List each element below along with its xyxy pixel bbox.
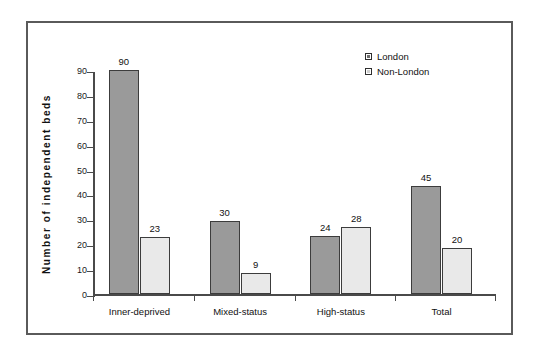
y-axis-title: Number of independent beds <box>39 72 55 296</box>
category-label: High-status <box>317 306 365 317</box>
y-axis-tick <box>87 271 95 272</box>
bar-value-label: 90 <box>119 56 130 67</box>
bar-value-label: 9 <box>253 259 258 270</box>
y-axis-tick-label: 40 <box>61 191 87 200</box>
y-axis-tick-label: 0 <box>61 291 87 300</box>
category-label: Mixed-status <box>213 306 267 317</box>
bar-london[interactable]: 45 <box>411 186 441 294</box>
bar-value-label: 24 <box>320 222 331 233</box>
chart-legend: London Non-London <box>365 50 429 80</box>
y-axis-tick-labels: 9080706050403020100 <box>57 72 87 296</box>
y-axis-line <box>93 72 95 296</box>
x-axis-tick <box>395 294 396 301</box>
bar-value-label: 23 <box>150 223 161 234</box>
x-axis-tick <box>93 294 94 301</box>
x-axis-tick <box>495 294 496 301</box>
legend-item-london[interactable]: London <box>365 50 429 63</box>
bar-non-london[interactable]: 9 <box>241 273 271 294</box>
y-axis-tick <box>87 72 95 73</box>
bar-group: 4520 <box>411 70 472 294</box>
bar-value-label: 28 <box>351 213 362 224</box>
y-axis-tick-label: 90 <box>61 67 87 76</box>
legend-label-non-london: Non-London <box>377 66 429 77</box>
y-axis-tick <box>87 122 95 123</box>
legend-item-non-london[interactable]: Non-London <box>365 65 429 78</box>
x-axis-tick <box>194 294 195 301</box>
bar-value-label: 45 <box>421 172 432 183</box>
y-axis-tick-label: 20 <box>61 241 87 250</box>
bar-group: 2428 <box>310 70 371 294</box>
y-axis-tick <box>87 97 95 98</box>
bar-value-label: 20 <box>452 234 463 245</box>
y-axis-tick <box>87 246 95 247</box>
y-axis-tick-label: 80 <box>61 92 87 101</box>
y-axis-tick <box>87 196 95 197</box>
bar-non-london[interactable]: 23 <box>140 237 170 294</box>
bar-group: 309 <box>210 70 271 294</box>
bar-value-label: 30 <box>219 207 230 218</box>
legend-swatch-non-london-icon <box>365 68 372 75</box>
bar-non-london[interactable]: 28 <box>341 227 371 294</box>
y-axis-tick <box>87 221 95 222</box>
y-axis-tick <box>87 147 95 148</box>
y-axis-tick-label: 30 <box>61 216 87 225</box>
y-axis-tick-label: 70 <box>61 117 87 126</box>
category-label: Total <box>432 306 452 317</box>
bar-london[interactable]: 30 <box>210 221 240 294</box>
legend-swatch-london-icon <box>365 53 372 60</box>
bar-london[interactable]: 90 <box>109 70 139 294</box>
bar-group: 9023 <box>109 70 170 294</box>
y-axis-tick <box>87 172 95 173</box>
y-axis-tick-label: 50 <box>61 167 87 176</box>
plot-area: Number of independent beds 9080706050403… <box>93 72 496 316</box>
y-axis-tick-label: 60 <box>61 142 87 151</box>
bar-non-london[interactable]: 20 <box>442 248 472 294</box>
x-axis-tick <box>295 294 296 301</box>
y-axis-tick-label: 10 <box>61 266 87 275</box>
bar-london[interactable]: 24 <box>310 236 340 294</box>
category-label: Inner-deprived <box>109 306 170 317</box>
legend-label-london: London <box>377 51 409 62</box>
chart-figure-frame: Number of independent beds 9080706050403… <box>26 21 513 335</box>
